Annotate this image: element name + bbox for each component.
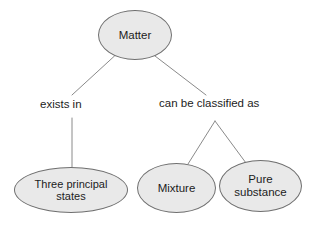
connector-matter-to-exists-in [72, 56, 115, 95]
edge-label-can-be-classified-as-text: can be classified as [159, 97, 259, 109]
node-mixture[interactable]: Mixture [137, 163, 216, 213]
concept-map-diagram: Matter exists in can be classified as Th… [0, 0, 311, 228]
edge-label-exists-in-text: exists in [40, 98, 82, 110]
edge-label-exists-in: exists in [40, 98, 82, 110]
connector-classified-to-pure-substance [215, 121, 246, 163]
node-matter-label: Matter [115, 29, 156, 42]
node-three-principal-states[interactable]: Three principal states [14, 167, 128, 213]
connector-classified-to-mixture [188, 121, 215, 164]
connector-matter-to-can-be-classified-as [155, 56, 206, 95]
node-matter[interactable]: Matter [98, 10, 172, 60]
node-pure-substance-label: Pure substance [230, 173, 290, 199]
edge-label-can-be-classified-as: can be classified as [159, 97, 259, 109]
node-three-principal-states-label: Three principal states [31, 178, 112, 203]
node-mixture-label: Mixture [154, 182, 200, 195]
node-pure-substance[interactable]: Pure substance [219, 160, 302, 212]
